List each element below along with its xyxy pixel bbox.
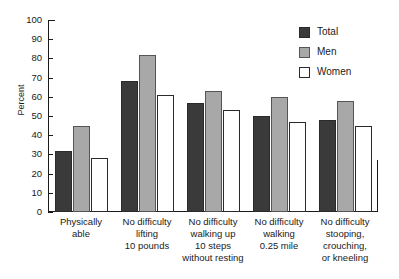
- x-axis-tick-label-line: No difficulty: [308, 216, 382, 228]
- legend-item-women: Women: [299, 62, 391, 82]
- legend-swatch-icon: [299, 67, 310, 78]
- bar-men: [205, 91, 222, 212]
- bar-men: [73, 126, 90, 212]
- x-axis-tick-label: No difficultylifting10 pounds: [110, 216, 184, 252]
- bar-total: [187, 103, 204, 212]
- legend-item-men: Men: [299, 42, 391, 62]
- bar-women: [157, 95, 174, 212]
- x-axis-tick-label-line: 10 steps: [176, 240, 250, 252]
- y-axis-tick-label: 0: [16, 207, 42, 217]
- bar-group: [55, 20, 108, 212]
- y-axis-tick-label: 80: [16, 53, 42, 63]
- y-axis-tick-labels: 0102030405060708090100: [14, 0, 42, 279]
- x-axis-tick-label-line: able: [44, 228, 118, 240]
- bar-group: [187, 20, 240, 212]
- x-axis-tick-label-line: or kneeling: [308, 252, 382, 264]
- legend-swatch-icon: [299, 47, 310, 58]
- chart-legend: TotalMenWomen: [299, 22, 391, 82]
- x-axis-tick-label-line: No difficulty: [242, 216, 316, 228]
- x-axis-tick-label-line: 10 pounds: [110, 240, 184, 252]
- bar-group: [121, 20, 174, 212]
- legend-item-label: Men: [317, 47, 336, 57]
- x-axis-tick-label: No difficultystooping,crouching,or kneel…: [308, 216, 382, 264]
- x-axis-tick-label-line: 0.25 mile: [242, 240, 316, 252]
- bar-women: [223, 110, 240, 212]
- y-axis-tick-label: 10: [16, 188, 42, 198]
- legend-item-total: Total: [299, 22, 391, 42]
- x-axis-tick-label-line: lifting: [110, 228, 184, 240]
- bar-women: [355, 126, 372, 212]
- bar-women: [91, 158, 108, 212]
- x-axis-tick-label-line: walking: [242, 228, 316, 240]
- x-axis-tick-label-line: No difficulty: [110, 216, 184, 228]
- x-axis-tick-label: No difficultywalking0.25 mile: [242, 216, 316, 252]
- y-axis-tick-label: 50: [16, 111, 42, 121]
- x-axis-tick-label-line: No difficulty: [176, 216, 250, 228]
- y-axis-tick-label: 70: [16, 73, 42, 83]
- bar-men: [271, 97, 288, 212]
- legend-item-label: Total: [317, 27, 338, 37]
- x-axis-tick-label: Physicallyable: [44, 216, 118, 240]
- y-axis-tick-label: 100: [16, 15, 42, 25]
- y-axis-tick-label: 60: [16, 92, 42, 102]
- bar-total: [253, 116, 270, 212]
- x-axis-tick-label-line: walking up: [176, 228, 250, 240]
- bar-chart: Percent 0102030405060708090100 Physicall…: [0, 0, 399, 279]
- y-axis-tick-label: 30: [16, 149, 42, 159]
- legend-item-label: Women: [317, 67, 351, 77]
- y-axis-tick-label: 40: [16, 130, 42, 140]
- x-axis-tick-label-line: stooping,: [308, 228, 382, 240]
- bar-group: [253, 20, 306, 212]
- x-axis-tick-label-line: Physically: [44, 216, 118, 228]
- y-axis-tick-label: 20: [16, 169, 42, 179]
- y-axis-tick-mark: [48, 212, 53, 213]
- bar-men: [139, 55, 156, 212]
- x-axis-tick-label-line: without resting: [176, 252, 250, 264]
- bar-women: [289, 122, 306, 212]
- bar-men: [337, 101, 354, 212]
- bar-total: [319, 120, 336, 212]
- bar-total: [55, 151, 72, 212]
- x-axis-tick-label: No difficultywalking up10 stepswithout r…: [176, 216, 250, 264]
- x-axis-tick-labels: PhysicallyableNo difficultylifting10 pou…: [48, 216, 378, 279]
- y-axis-tick-label: 90: [16, 34, 42, 44]
- x-axis-tick-label-line: crouching,: [308, 240, 382, 252]
- legend-swatch-icon: [299, 27, 310, 38]
- bar-total: [121, 81, 138, 212]
